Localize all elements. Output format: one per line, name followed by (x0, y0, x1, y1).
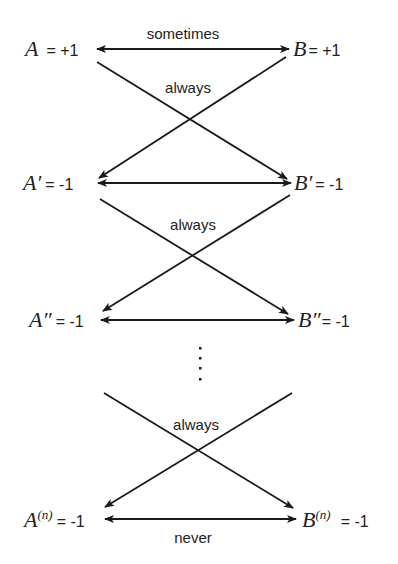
var-b: B= +1 (293, 36, 341, 61)
var-a-n: A(n)= -1 (22, 507, 85, 532)
var-b-n: B(n)= -1 (302, 507, 369, 532)
var-a-prime: A′= -1 (21, 170, 73, 195)
link-label-sometimes: sometimes (147, 25, 220, 42)
link-label-never: never (174, 529, 212, 546)
var-a-double-prime: A″= -1 (27, 307, 84, 332)
cross-3: always (104, 393, 293, 508)
diagram-canvas: A= +1 sometimes B= +1 always A′= -1 B′= … (0, 0, 398, 564)
var-b-double-prime: B″= -1 (298, 307, 350, 332)
row-3: A″= -1 B″= -1 (27, 307, 350, 332)
arrow-b-prime-to-a-double-prime (103, 195, 290, 311)
row-2: A′= -1 B′= -1 (21, 170, 343, 195)
var-b-prime: B′= -1 (294, 170, 343, 195)
row-4: A(n)= -1 never B(n)= -1 (22, 507, 369, 546)
var-a: A= +1 (23, 36, 79, 61)
row-1: A= +1 sometimes B= +1 (23, 25, 341, 61)
cross-label-always: always (170, 216, 216, 233)
cross-label-always: always (173, 416, 219, 433)
cross-2: always (100, 195, 290, 314)
cross-1: always (97, 57, 287, 179)
cross-label-always: always (165, 79, 211, 96)
ellipsis-dots (199, 347, 202, 381)
arrow-b-to-a-prime (99, 57, 286, 178)
